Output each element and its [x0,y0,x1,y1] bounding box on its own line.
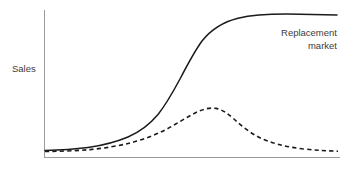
series-replacement-market [45,108,338,151]
sales-diffusion-chart: Sales Replacement market [0,0,348,171]
annotation-replacement-market-line2: market [308,40,337,51]
chart-container: Sales Replacement market [0,0,348,171]
annotation-replacement-market-line1: Replacement [281,27,337,38]
y-axis-label: Sales [12,63,36,74]
